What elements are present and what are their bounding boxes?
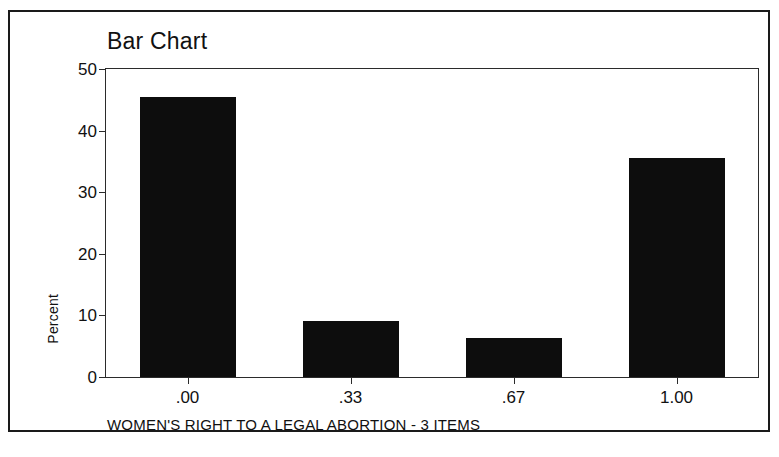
- x-axis-title: WOMEN'S RIGHT TO A LEGAL ABORTION - 3 IT…: [107, 416, 480, 433]
- y-axis-tick-label: 20: [78, 245, 97, 262]
- y-axis-tick-label: 30: [78, 184, 97, 201]
- figure-frame: Bar Chart Percent 01020304050 .00.33.671…: [8, 10, 770, 432]
- x-axis-tick: [351, 377, 352, 384]
- y-axis-title: Percent: [46, 294, 60, 344]
- y-axis-tick: [99, 192, 106, 193]
- x-axis-tick-label: .33: [339, 389, 363, 407]
- y-axis-tick: [99, 377, 106, 378]
- y-axis-tick-label: 40: [78, 122, 97, 139]
- bar: [466, 338, 562, 377]
- y-axis-tick: [99, 315, 106, 316]
- y-axis-tick-label: 50: [78, 61, 97, 78]
- y-axis-tick: [99, 131, 106, 132]
- x-axis-tick: [188, 377, 189, 384]
- bar: [140, 97, 236, 377]
- x-axis-tick-label: 1.00: [660, 389, 693, 407]
- x-axis-tick-label: .00: [176, 389, 200, 407]
- x-axis-tick: [677, 377, 678, 384]
- x-axis-tick-label: .67: [502, 389, 526, 407]
- y-axis-tick: [99, 69, 106, 70]
- x-axis-tick: [514, 377, 515, 384]
- bar: [629, 158, 725, 377]
- y-axis-tick: [99, 254, 106, 255]
- y-axis-tick-label: 0: [88, 369, 97, 386]
- y-axis-tick-label: 10: [78, 307, 97, 324]
- chart-title: Bar Chart: [107, 28, 207, 54]
- bar: [303, 321, 399, 377]
- plot-area: 01020304050 .00.33.671.00: [105, 68, 759, 378]
